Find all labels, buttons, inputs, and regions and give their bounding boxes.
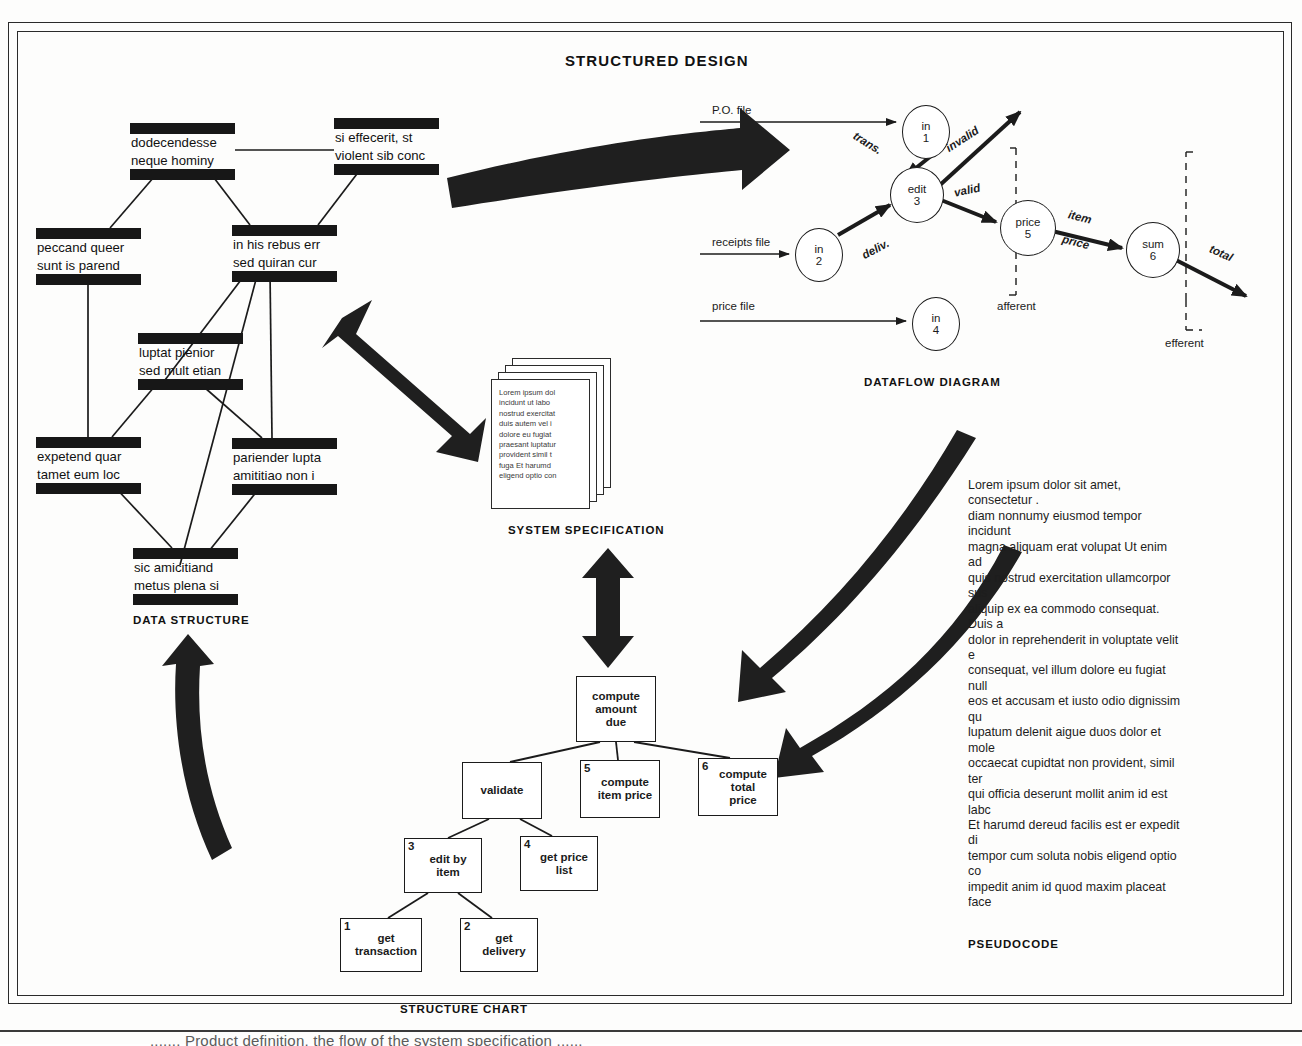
box-bottom-bar	[334, 164, 439, 175]
bubble-name: in	[932, 312, 941, 325]
dataflow-bubble: in 2	[795, 228, 843, 282]
pseudocode-body-text: Lorem ipsum dolor sit amet, consectetur …	[968, 478, 1182, 908]
page-title: STRUCTURED DESIGN	[565, 52, 749, 69]
section-label-dataflow-diagram: DATAFLOW DIAGRAM	[864, 376, 1001, 388]
data-structure-box: luptat pienior sed mult etian	[138, 333, 243, 390]
box-number: 1	[344, 920, 350, 933]
structure-chart-box: 4 get price list	[520, 836, 598, 891]
dataflow-bubble: price 5	[1000, 200, 1056, 256]
bubble-number: 5	[1025, 228, 1031, 241]
bubble-number: 6	[1150, 250, 1156, 263]
box-top-bar	[36, 437, 141, 448]
box-bottom-bar	[133, 594, 238, 605]
data-structure-box: sic amicitiand metus plena si	[133, 548, 238, 605]
document-page-text: Lorem ipsum dol incidunt ut labo nostrud…	[499, 388, 556, 482]
data-structure-box: dodecendesse neque hominy	[130, 123, 235, 180]
box-line-2: sed quiran cur	[232, 254, 337, 272]
structure-chart-box: 2 get delivery	[460, 918, 538, 972]
bubble-name: edit	[908, 183, 927, 196]
structure-chart-box: compute amount due	[576, 676, 656, 742]
box-bottom-bar	[130, 169, 235, 180]
bottom-caption: ....... Product definition, the flow of …	[150, 1032, 1150, 1046]
box-top-bar	[232, 225, 337, 236]
bubble-name: in	[922, 120, 931, 133]
box-number: 3	[408, 840, 414, 853]
box-number: 2	[464, 920, 470, 933]
box-top-bar	[133, 548, 238, 559]
bubble-number: 2	[816, 255, 822, 268]
section-label-structure-chart: STRUCTURE CHART	[400, 1003, 528, 1015]
box-line-1: in his rebus err	[232, 236, 337, 254]
box-bottom-bar	[232, 484, 337, 495]
box-line-2: metus plena si	[133, 577, 238, 595]
dataflow-bubble: in 4	[912, 297, 960, 351]
box-line-2: violent sib conc	[334, 147, 439, 165]
box-line-2: amititiao non i	[232, 467, 337, 485]
box-number: 6	[702, 760, 708, 773]
box-label: compute amount due	[588, 690, 644, 729]
box-bottom-bar	[36, 274, 141, 285]
dataflow-bubble: in 1	[902, 105, 950, 159]
box-top-bar	[232, 438, 337, 449]
partition-label-afferent: afferent	[997, 300, 1036, 312]
box-line-1: pariender lupta	[232, 449, 337, 467]
box-label: validate	[477, 784, 528, 797]
box-top-bar	[334, 118, 439, 129]
structure-chart-box: 5 compute item price	[580, 760, 660, 818]
bubble-name: in	[815, 243, 824, 256]
structure-chart-box: 1 get transaction	[340, 918, 422, 972]
dataflow-input-label: receipts file	[712, 236, 770, 248]
bubble-number: 3	[914, 195, 920, 208]
structure-chart-box: validate	[462, 762, 542, 819]
box-line-1: sic amicitiand	[133, 559, 238, 577]
section-label-system-specification: SYSTEM SPECIFICATION	[508, 524, 664, 536]
box-top-bar	[36, 228, 141, 239]
box-line-2: sunt is parend	[36, 257, 141, 275]
box-number: 5	[584, 762, 590, 775]
bubble-name: sum	[1142, 238, 1164, 251]
bubble-name: price	[1016, 216, 1041, 229]
box-line-1: si effecerit, st	[334, 129, 439, 147]
box-line-1: expetend quar	[36, 448, 141, 466]
box-bottom-bar	[232, 271, 337, 282]
box-number: 4	[524, 838, 530, 851]
dataflow-bubble: edit 3	[890, 167, 944, 223]
partition-label-efferent: efferent	[1165, 337, 1204, 349]
data-structure-box: si effecerit, st violent sib conc	[334, 118, 439, 175]
box-line-2: tamet eum loc	[36, 466, 141, 484]
box-label: compute total price	[705, 768, 771, 807]
data-structure-box: expetend quar tamet eum loc	[36, 437, 141, 494]
bubble-number: 4	[933, 324, 939, 337]
box-label: get price list	[526, 851, 592, 877]
section-label-pseudocode: PSEUDOCODE	[968, 938, 1059, 950]
box-line-1: dodecendesse	[130, 134, 235, 152]
box-line-1: peccand queer	[36, 239, 141, 257]
section-label-data-structure: DATA STRUCTURE	[133, 614, 250, 626]
bubble-number: 1	[923, 132, 929, 145]
data-structure-box: pariender lupta amititiao non i	[232, 438, 337, 495]
dataflow-bubble: sum 6	[1126, 222, 1180, 278]
box-line-2: neque hominy	[130, 152, 235, 170]
dataflow-input-label: P.O. file	[712, 104, 751, 116]
box-line-2: sed mult etian	[138, 362, 243, 380]
box-bottom-bar	[36, 483, 141, 494]
box-label: get transaction	[341, 932, 421, 958]
structure-chart-box: 6 compute total price	[698, 758, 778, 816]
box-bottom-bar	[138, 379, 243, 390]
box-label: edit by item	[415, 853, 470, 879]
structure-chart-box: 3 edit by item	[404, 838, 482, 893]
document-page-front: Lorem ipsum dol incidunt ut labo nostrud…	[491, 379, 590, 509]
box-label: compute item price	[584, 776, 656, 802]
dataflow-input-label: price file	[712, 300, 755, 312]
box-label: get delivery	[468, 932, 529, 958]
box-line-1: luptat pienior	[138, 344, 243, 362]
box-top-bar	[130, 123, 235, 134]
data-structure-box: peccand queer sunt is parend	[36, 228, 141, 285]
box-top-bar	[138, 333, 243, 344]
data-structure-box: in his rebus err sed quiran cur	[232, 225, 337, 282]
